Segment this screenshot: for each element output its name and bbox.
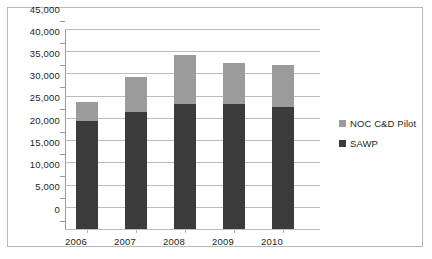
bar-segment-noc <box>223 63 245 103</box>
x-axis-tick-label: 2009 <box>200 236 246 247</box>
y-axis-labels: 45,000 40,000 35,000 30,000 25,000 20,00… <box>8 8 60 259</box>
gridline <box>65 29 320 30</box>
x-axis-tick-label: 2006 <box>53 236 99 247</box>
bar-segment-noc <box>272 65 294 107</box>
y-axis-tick-label: 0 <box>14 204 60 215</box>
legend-label: SAWP <box>350 138 378 149</box>
y-axis-tick-label: 5,000 <box>14 181 60 192</box>
x-axis-tick-label: 2010 <box>249 236 295 247</box>
gridline <box>65 229 320 230</box>
bar-segment-sawp <box>223 104 245 229</box>
y-axis-tick-label: 40,000 <box>14 26 60 37</box>
x-axis-tick-label: 2008 <box>151 236 197 247</box>
legend-item-noc: NOC C&D Pilot <box>339 118 432 129</box>
bar-segment-sawp <box>125 112 147 229</box>
y-axis-tick-label: 20,000 <box>14 115 60 126</box>
gridline <box>65 51 320 52</box>
y-axis-tick-label: 15,000 <box>14 137 60 148</box>
y-axis-tick-label: 30,000 <box>14 70 60 81</box>
legend-label: NOC C&D Pilot <box>350 118 416 129</box>
y-axis-tick <box>60 21 65 22</box>
y-axis-tick-label: 45,000 <box>14 4 60 15</box>
chart-figure: 45,000 40,000 35,000 30,000 25,000 20,00… <box>0 0 432 259</box>
bar-segment-noc <box>125 77 147 112</box>
bar-segment-sawp <box>272 107 294 229</box>
y-axis-tick-label: 10,000 <box>14 159 60 170</box>
y-axis-tick-label: 25,000 <box>14 92 60 103</box>
bar-segment-sawp <box>174 104 196 229</box>
y-axis-tick-label: 35,000 <box>14 48 60 59</box>
chart-legend: NOC C&D Pilot SAWP <box>339 118 432 158</box>
legend-swatch-icon <box>339 140 346 147</box>
x-axis-tick-label: 2007 <box>102 236 148 247</box>
plot-area <box>65 29 320 229</box>
legend-item-sawp: SAWP <box>339 138 432 149</box>
bar-segment-noc <box>76 102 98 121</box>
legend-swatch-icon <box>339 120 346 127</box>
chart-frame: 45,000 40,000 35,000 30,000 25,000 20,00… <box>7 7 423 247</box>
bar-segment-sawp <box>76 121 98 229</box>
bar-segment-noc <box>174 55 196 104</box>
